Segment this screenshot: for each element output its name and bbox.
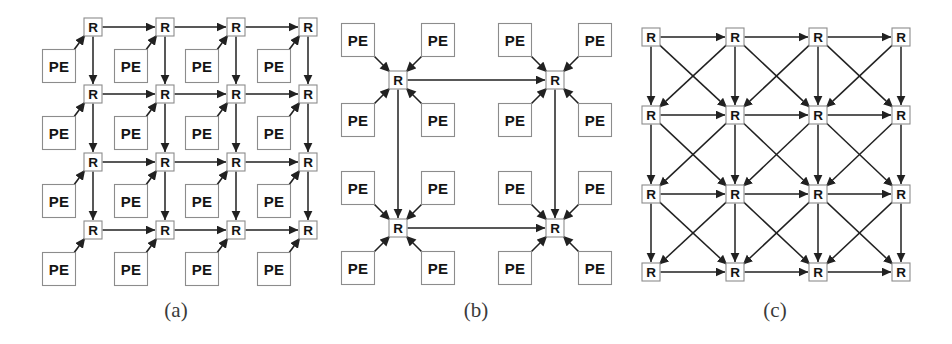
router-node-label: R [896, 187, 906, 202]
panel-b-nodes: PEPEPEPEPEPEPEPEPEPEPEPEPEPEPEPERRRR [342, 24, 612, 285]
pe-node-label: PE [505, 260, 525, 277]
pe-node-label: PE [49, 58, 69, 75]
link-pe-to-router[interactable] [406, 88, 424, 106]
router-node-label: R [730, 108, 740, 123]
router-node-label: R [88, 155, 98, 170]
router-node-label: R [896, 30, 906, 45]
router-node-label: R [393, 73, 403, 88]
panel-b-svg: PEPEPEPEPEPEPEPEPEPEPEPEPEPEPEPERRRR [320, 0, 640, 344]
link-pe-to-router[interactable] [146, 238, 158, 254]
link-pe-to-router[interactable] [146, 35, 158, 51]
link-pe-to-router[interactable] [146, 102, 158, 118]
pe-node-label: PE [192, 193, 212, 210]
router-node-label: R [550, 73, 560, 88]
link-pe-to-router[interactable] [74, 170, 86, 186]
link-pe-to-router[interactable] [530, 203, 548, 221]
pe-node-label: PE [49, 261, 69, 278]
pe-node-label: PE [348, 32, 368, 49]
link-pe-to-router[interactable] [530, 236, 548, 254]
router-node-label: R [160, 87, 170, 102]
link-pe-to-router[interactable] [74, 238, 86, 254]
link-pe-to-router[interactable] [373, 55, 391, 73]
pe-node-label: PE [585, 260, 605, 277]
pe-node-label: PE [505, 112, 525, 129]
link-pe-to-router[interactable] [373, 203, 391, 221]
link-pe-to-router[interactable] [289, 238, 301, 254]
pe-node-label: PE [49, 125, 69, 142]
pe-node-label: PE [192, 261, 212, 278]
link-pe-to-router[interactable] [563, 203, 581, 221]
router-node-label: R [813, 108, 823, 123]
router-node-label: R [160, 155, 170, 170]
router-node-label: R [88, 87, 98, 102]
pe-node-label: PE [428, 260, 448, 277]
pe-node-label: PE [428, 112, 448, 129]
link-pe-to-router[interactable] [563, 236, 581, 254]
link-pe-to-router[interactable] [217, 170, 229, 186]
router-node-label: R [730, 265, 740, 280]
router-node-label: R [896, 108, 906, 123]
router-node-label: R [231, 20, 241, 35]
router-node-label: R [231, 223, 241, 238]
link-pe-to-router[interactable] [373, 88, 391, 106]
router-node-label: R [896, 265, 906, 280]
pe-node-label: PE [348, 260, 368, 277]
pe-node-label: PE [264, 58, 284, 75]
router-node-label: R [88, 223, 98, 238]
pe-node-label: PE [348, 112, 368, 129]
router-node-label: R [303, 87, 313, 102]
link-pe-to-router[interactable] [406, 55, 424, 73]
link-pe-to-router[interactable] [530, 88, 548, 106]
router-node-label: R [160, 20, 170, 35]
link-pe-to-router[interactable] [406, 236, 424, 254]
link-pe-to-router[interactable] [217, 102, 229, 118]
link-pe-to-router[interactable] [406, 203, 424, 221]
panel-a-svg: PEPEPEPEPEPEPEPEPEPEPEPEPEPEPEPERRRRRRRR… [0, 0, 320, 344]
pe-node-label: PE [585, 180, 605, 197]
pe-node-label: PE [121, 193, 141, 210]
pe-node-label: PE [505, 180, 525, 197]
pe-node-label: PE [428, 32, 448, 49]
router-node-label: R [646, 30, 656, 45]
link-pe-to-router[interactable] [217, 35, 229, 51]
pe-node-label: PE [585, 112, 605, 129]
router-node-label: R [303, 20, 313, 35]
link-pe-to-router[interactable] [217, 238, 229, 254]
pe-node-label: PE [264, 125, 284, 142]
pe-node-label: PE [585, 32, 605, 49]
router-node-label: R [303, 155, 313, 170]
pe-node-label: PE [192, 58, 212, 75]
link-pe-to-router[interactable] [74, 35, 86, 51]
link-pe-to-router[interactable] [563, 55, 581, 73]
router-node-label: R [730, 30, 740, 45]
link-pe-to-router[interactable] [289, 35, 301, 51]
link-pe-to-router[interactable] [289, 102, 301, 118]
router-node-label: R [646, 108, 656, 123]
link-pe-to-router[interactable] [289, 170, 301, 186]
link-pe-to-router[interactable] [563, 88, 581, 106]
caption-panel-c: (c) [715, 298, 835, 323]
link-pe-to-router[interactable] [74, 102, 86, 118]
pe-node-label: PE [264, 193, 284, 210]
pe-node-label: PE [49, 193, 69, 210]
router-node-label: R [231, 155, 241, 170]
pe-node-label: PE [348, 180, 368, 197]
pe-node-label: PE [121, 125, 141, 142]
router-node-label: R [303, 223, 313, 238]
link-pe-to-router[interactable] [373, 236, 391, 254]
figure-container: PEPEPEPEPEPEPEPEPEPEPEPEPEPEPEPERRRRRRRR… [0, 0, 952, 344]
router-node-label: R [160, 223, 170, 238]
link-pe-to-router[interactable] [530, 55, 548, 73]
router-node-label: R [393, 221, 403, 236]
pe-node-label: PE [264, 261, 284, 278]
router-node-label: R [813, 187, 823, 202]
panel-a-nodes: PEPEPEPEPEPEPEPEPEPEPEPEPEPEPEPERRRRRRRR… [43, 18, 318, 286]
pe-node-label: PE [505, 32, 525, 49]
router-node-label: R [813, 30, 823, 45]
panel-c-svg: RRRRRRRRRRRRRRRR [630, 0, 952, 344]
panel-c-diagonal-mesh: RRRRRRRRRRRRRRRR [630, 0, 952, 344]
link-pe-to-router[interactable] [146, 170, 158, 186]
router-node-label: R [550, 221, 560, 236]
pe-node-label: PE [428, 180, 448, 197]
pe-node-label: PE [121, 261, 141, 278]
